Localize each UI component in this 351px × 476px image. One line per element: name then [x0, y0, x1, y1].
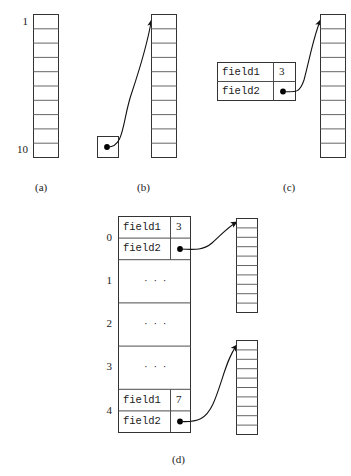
array-a	[34, 15, 59, 158]
slot-0-field1-name: field1	[123, 222, 161, 233]
pointer-arrow-b	[107, 20, 152, 147]
caption-b: (b)	[137, 182, 150, 193]
slot-0-field1-value: 3	[176, 221, 182, 232]
array-index-top-a: 1	[6, 16, 28, 27]
panel-a	[34, 15, 59, 158]
caption-c: (c)	[283, 182, 295, 193]
slot-0-field2-name: field2	[123, 243, 161, 254]
struct-c-field1-value: 3	[279, 66, 285, 77]
panel-b	[98, 15, 177, 158]
array-index-bottom-a: 10	[6, 144, 28, 155]
slot-index-0: 0	[96, 232, 112, 243]
slot-4-field1-value: 7	[176, 394, 182, 405]
array-c	[321, 15, 346, 158]
caption-d: (d)	[172, 454, 185, 465]
slot-1-ellipsis: · · ·	[144, 275, 168, 286]
struct-c-field2-name: field2	[222, 86, 260, 97]
slot-3-ellipsis: · · ·	[144, 361, 168, 372]
figure-root: 1 10 field1 3 field2 0 1 2 3 4 field1 3 …	[0, 0, 351, 476]
slot-index-1: 1	[96, 275, 112, 286]
slot-index-3: 3	[96, 361, 112, 372]
slot-4-field1-name: field1	[123, 395, 161, 406]
target-array-slot-0	[237, 219, 258, 313]
slot-4-field2-name: field2	[123, 416, 161, 427]
target-array-slot-4	[237, 341, 258, 435]
slot-index-2: 2	[96, 318, 112, 329]
slot-2-ellipsis: · · ·	[144, 318, 168, 329]
array-b	[152, 15, 177, 158]
slot-index-4: 4	[96, 405, 112, 416]
struct-c-field1-name: field1	[222, 67, 260, 78]
caption-a: (a)	[35, 182, 47, 193]
